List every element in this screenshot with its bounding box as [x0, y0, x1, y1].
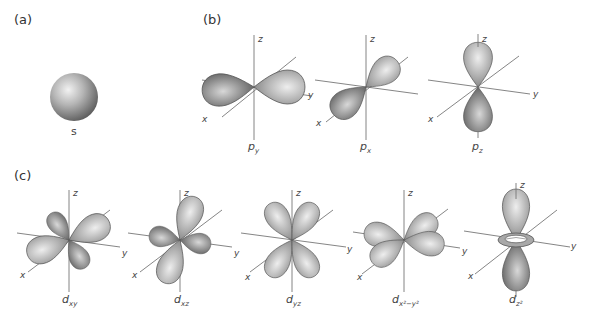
- x-axis-label: x: [356, 272, 363, 282]
- panel-label-a: (a): [14, 12, 32, 27]
- z-axis-label: z: [183, 188, 189, 198]
- pz-label: pz: [471, 140, 483, 155]
- px-orbital: z x px: [315, 34, 418, 155]
- panel-label-c: (c): [14, 168, 31, 183]
- x-axis-label: x: [467, 271, 474, 281]
- dz2-orbital: z y x dz²: [464, 180, 577, 308]
- z-axis-label: z: [519, 180, 525, 190]
- x-axis-label: x: [19, 270, 26, 280]
- z-axis-label: z: [407, 188, 413, 198]
- z-axis-label: z: [295, 188, 301, 198]
- y-axis-label: y: [570, 241, 577, 251]
- dxy-orbital: z y x dxy: [17, 188, 128, 308]
- z-axis-label: z: [481, 34, 487, 44]
- dxz-orbital: z y x dxz: [128, 188, 240, 308]
- x-axis-label: x: [131, 270, 138, 280]
- s-orbital-label: s: [71, 125, 77, 138]
- y-axis-label: y: [461, 246, 468, 256]
- dyz-orbital: z y x dyz: [241, 188, 353, 308]
- dx2y2-label: dx²−y²: [392, 293, 419, 308]
- py-lobe-positive: [254, 70, 305, 104]
- py-lobe-negative: [201, 71, 256, 108]
- pz-orbital: z y x pz: [427, 34, 539, 155]
- z-axis-label: z: [72, 188, 78, 198]
- dz2-torus: [498, 233, 534, 247]
- px-label: px: [359, 140, 372, 155]
- x-axis-label: x: [427, 114, 434, 124]
- dz2-lobe-bottom: [502, 240, 529, 291]
- x-axis-label: x: [201, 114, 208, 124]
- dxz-label: dxz: [174, 293, 189, 308]
- y-axis-label: y: [233, 248, 240, 258]
- dx2-y2-orbital: z y x dx²−y²: [353, 188, 468, 308]
- panel-label-b: (b): [203, 12, 221, 27]
- dxy-label: dxy: [62, 293, 78, 308]
- dz2-label: dz²: [509, 293, 523, 308]
- py-orbital: z y x py: [201, 34, 314, 155]
- y-axis-label: y: [307, 90, 314, 100]
- z-axis-label: z: [369, 34, 375, 44]
- py-label: py: [247, 140, 260, 155]
- y-axis-label: y: [121, 248, 128, 258]
- pz-lobe-top: [464, 42, 493, 87]
- dyz-label: dyz: [286, 293, 301, 308]
- x-axis-label: x: [315, 118, 322, 128]
- atomic-orbitals-figure: (a) (b) (c) s z y x py z x px z y: [0, 0, 591, 322]
- y-axis-label: y: [532, 89, 539, 99]
- y-axis-label: y: [346, 244, 353, 254]
- x-axis-label: x: [244, 272, 251, 282]
- s-orbital: s: [50, 73, 98, 138]
- z-axis-label: z: [257, 34, 263, 44]
- s-orbital-sphere: [50, 73, 98, 121]
